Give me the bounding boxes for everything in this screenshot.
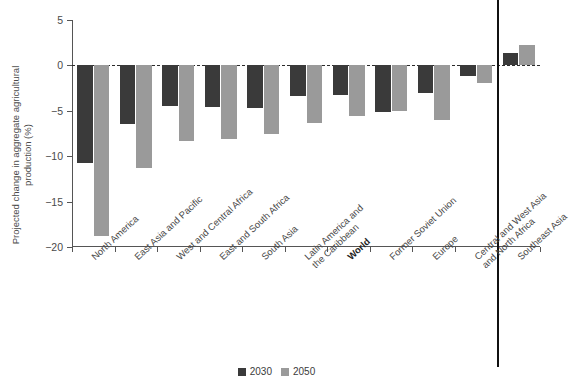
y-tick-3 — [67, 156, 72, 157]
vertical-separator — [497, 0, 499, 367]
x-tick-0 — [72, 247, 73, 252]
x-tick-end — [540, 247, 541, 252]
bar-2050-4 — [264, 65, 280, 134]
legend-swatch-2030-icon — [238, 368, 246, 376]
bar-2050-9 — [477, 65, 493, 82]
y-tick-label-2: −5 — [51, 105, 63, 117]
bar-2030-3 — [205, 65, 221, 107]
x-tick-4 — [242, 247, 243, 252]
bar-2030-4 — [247, 65, 263, 108]
legend-label-2030: 2030 — [250, 366, 272, 377]
bar-2050-7 — [392, 65, 408, 110]
y-tick-label-5: −20 — [45, 241, 63, 253]
bar-2030-10 — [503, 53, 519, 66]
bar-2030-6 — [333, 65, 349, 95]
legend-item-2030: 2030 — [238, 366, 272, 377]
legend-label-2050: 2050 — [293, 366, 315, 377]
y-tick-label-1: 0 — [57, 59, 63, 71]
x-tick-5 — [285, 247, 286, 252]
y-axis-title-container: Projected change in aggregate agricultur… — [10, 0, 40, 60]
x-tick-7 — [370, 247, 371, 252]
bar-2050-2 — [179, 65, 195, 140]
bar-2050-5 — [307, 65, 323, 122]
y-tick-4 — [67, 202, 72, 203]
bar-2030-9 — [460, 65, 476, 76]
legend-item-2050: 2050 — [281, 366, 315, 377]
y-axis-title: Projected change in aggregate agricultur… — [10, 60, 34, 250]
bar-2050-10 — [519, 45, 535, 66]
bar-2030-1 — [120, 65, 136, 123]
bar-2030-8 — [418, 65, 434, 92]
legend-swatch-2050-icon — [281, 368, 289, 376]
chart-legend: 2030 2050 — [0, 366, 553, 377]
x-tick-1 — [115, 247, 116, 252]
plot-area: 50−5−10−15−20 — [72, 20, 540, 247]
y-axis-line — [72, 20, 73, 247]
y-tick-2 — [67, 111, 72, 112]
bar-2030-0 — [77, 65, 93, 162]
bar-2050-3 — [221, 65, 237, 139]
bar-2030-2 — [162, 65, 178, 106]
y-tick-0 — [67, 20, 72, 21]
bar-2030-7 — [375, 65, 391, 111]
bar-2050-1 — [136, 65, 152, 168]
x-tick-3 — [200, 247, 201, 252]
bar-2030-5 — [290, 65, 306, 96]
bar-2050-8 — [434, 65, 450, 119]
x-tick-8 — [412, 247, 413, 252]
y-tick-label-4: −15 — [45, 196, 63, 208]
bar-2050-6 — [349, 65, 365, 116]
y-tick-label-3: −10 — [45, 150, 63, 162]
y-tick-label-0: 5 — [57, 14, 63, 26]
x-tick-9 — [455, 247, 456, 252]
bar-2050-0 — [94, 65, 110, 236]
x-tick-2 — [157, 247, 158, 252]
